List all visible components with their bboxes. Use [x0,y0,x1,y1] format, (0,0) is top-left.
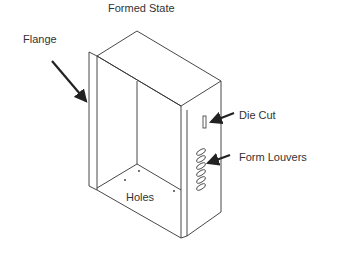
flange-arrow [52,61,86,101]
louvers [196,148,207,192]
die-cut-arrow [211,113,234,122]
die-cut-slot [203,116,206,128]
holes [124,170,175,192]
louver-arrow [208,155,230,163]
enclosure-drawing [0,0,338,258]
enclosure-box [89,31,221,238]
